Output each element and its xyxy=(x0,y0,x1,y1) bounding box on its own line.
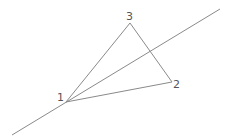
vertex-label-1: 1 xyxy=(57,91,64,104)
vertex-label-3: 3 xyxy=(126,10,133,23)
long-line xyxy=(12,9,220,135)
edge-1-3 xyxy=(66,23,130,102)
triangle-diagram: 1 2 3 xyxy=(0,0,229,138)
edge-3-2 xyxy=(130,23,172,82)
edge-2-1 xyxy=(66,82,172,102)
vertex-label-2: 2 xyxy=(173,78,180,91)
